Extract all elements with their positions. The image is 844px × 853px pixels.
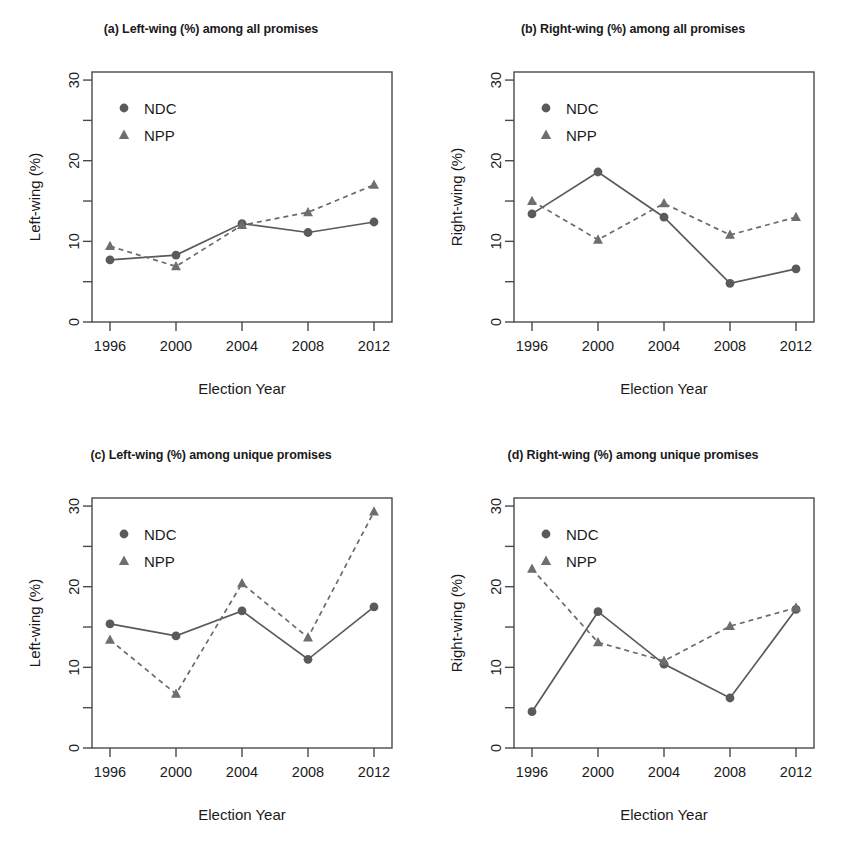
y-axis-label: Right-wing (%) [448, 574, 465, 672]
y-axis-label: Right-wing (%) [448, 148, 465, 246]
panel-d-plot: 010203019962000200420082012Election Year… [422, 426, 844, 852]
x-tick-label: 1996 [94, 338, 126, 354]
y-axis-label: Left-wing (%) [26, 579, 43, 667]
x-tick-label: 2000 [160, 338, 192, 354]
x-axis-label: Election Year [620, 380, 708, 397]
y-tick-label: 20 [488, 153, 504, 169]
x-tick-label: 2012 [358, 338, 390, 354]
data-point-ndc [726, 279, 735, 288]
legend-marker-ndc [120, 530, 129, 539]
data-point-npp [369, 506, 379, 515]
data-point-npp [659, 198, 669, 207]
data-point-ndc [528, 707, 537, 716]
data-point-npp [237, 578, 247, 587]
panel-b: (b) Right-wing (%) among all promises 01… [422, 0, 844, 426]
panel-a: (a) Left-wing (%) among all promises 010… [0, 0, 422, 426]
legend-marker-npp [119, 129, 129, 139]
x-tick-label: 2012 [358, 764, 390, 780]
y-tick-label: 30 [66, 72, 82, 88]
data-point-npp [303, 632, 313, 641]
legend-marker-npp [541, 129, 551, 139]
series-line-npp [532, 569, 796, 661]
x-tick-label: 2012 [780, 338, 812, 354]
x-tick-label: 2008 [714, 764, 746, 780]
data-point-npp [593, 234, 603, 243]
panel-a-plot: 010203019962000200420082012Election Year… [0, 0, 422, 426]
data-point-ndc [370, 603, 379, 612]
y-tick-label: 0 [488, 744, 504, 752]
x-tick-label: 2004 [226, 764, 258, 780]
data-point-npp [105, 241, 115, 250]
y-tick-label: 0 [66, 744, 82, 752]
y-tick-label: 20 [66, 579, 82, 595]
data-point-ndc [370, 218, 379, 227]
y-axis-label: Left-wing (%) [26, 153, 43, 241]
y-tick-label: 10 [66, 233, 82, 249]
y-tick-label: 10 [488, 659, 504, 675]
panel-c-plot: 010203019962000200420082012Election Year… [0, 426, 422, 852]
y-tick-label: 10 [66, 659, 82, 675]
panel-c: (c) Left-wing (%) among unique promises … [0, 426, 422, 852]
y-tick-label: 0 [488, 318, 504, 326]
plot-frame [514, 498, 814, 748]
x-axis-label: Election Year [198, 380, 286, 397]
data-point-ndc [304, 655, 313, 664]
legend-label-ndc: NDC [566, 526, 599, 543]
legend-label-ndc: NDC [566, 100, 599, 117]
y-tick-label: 30 [488, 72, 504, 88]
legend-label-npp: NPP [144, 553, 175, 570]
data-point-ndc [594, 168, 603, 177]
plot-frame [92, 498, 392, 748]
data-point-npp [791, 212, 801, 221]
data-point-ndc [792, 264, 801, 273]
data-point-npp [527, 564, 537, 573]
data-point-npp [171, 689, 181, 698]
y-tick-label: 30 [66, 498, 82, 514]
panel-b-plot: 010203019962000200420082012Election Year… [422, 0, 844, 426]
y-tick-label: 20 [66, 153, 82, 169]
data-point-ndc [238, 607, 247, 616]
y-tick-label: 10 [488, 233, 504, 249]
x-tick-label: 2000 [582, 338, 614, 354]
y-tick-label: 0 [66, 318, 82, 326]
legend-marker-ndc [120, 104, 129, 113]
data-point-ndc [660, 213, 669, 222]
legend-label-ndc: NDC [144, 526, 177, 543]
data-point-npp [105, 635, 115, 644]
x-axis-label: Election Year [198, 806, 286, 823]
legend-label-npp: NPP [566, 127, 597, 144]
data-point-ndc [172, 251, 181, 260]
legend-marker-npp [119, 555, 129, 565]
legend-label-npp: NPP [144, 127, 175, 144]
x-tick-label: 2008 [292, 764, 324, 780]
x-tick-label: 2008 [714, 338, 746, 354]
x-tick-label: 1996 [94, 764, 126, 780]
data-point-npp [527, 196, 537, 205]
data-point-ndc [594, 607, 603, 616]
x-tick-label: 1996 [516, 338, 548, 354]
data-point-ndc [726, 694, 735, 703]
legend-marker-ndc [542, 104, 551, 113]
panel-d: (d) Right-wing (%) among unique promises… [422, 426, 844, 852]
y-tick-label: 30 [488, 498, 504, 514]
x-tick-label: 2004 [226, 338, 258, 354]
x-tick-label: 2004 [648, 764, 680, 780]
x-tick-label: 1996 [516, 764, 548, 780]
data-point-ndc [106, 619, 115, 628]
x-tick-label: 2008 [292, 338, 324, 354]
x-tick-label: 2000 [582, 764, 614, 780]
x-axis-label: Election Year [620, 806, 708, 823]
data-point-ndc [106, 256, 115, 265]
legend-label-npp: NPP [566, 553, 597, 570]
data-point-npp [369, 180, 379, 189]
figure-four-panel-promises: (a) Left-wing (%) among all promises 010… [0, 0, 844, 853]
x-tick-label: 2000 [160, 764, 192, 780]
legend-marker-ndc [542, 530, 551, 539]
data-point-ndc [528, 210, 537, 219]
data-point-ndc [304, 228, 313, 237]
legend-marker-npp [541, 555, 551, 565]
x-tick-label: 2004 [648, 338, 680, 354]
x-tick-label: 2012 [780, 764, 812, 780]
legend-label-ndc: NDC [144, 100, 177, 117]
data-point-ndc [172, 632, 181, 641]
